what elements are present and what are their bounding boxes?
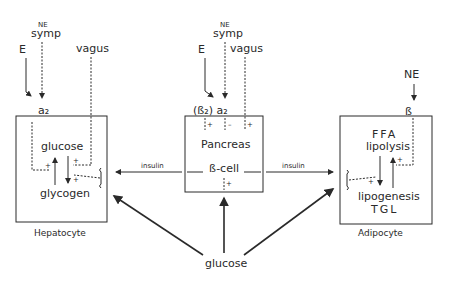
hep-e-arrow: [26, 58, 31, 96]
adi-brace: [347, 170, 349, 190]
glucose-source-label: glucose: [205, 257, 248, 270]
hep-sign: +: [73, 176, 79, 184]
glucose-to-liver-arrow: [114, 196, 203, 255]
pan-receptor-label: (ß₂) a₂: [193, 104, 228, 117]
hep-vagus-label: vagus: [76, 42, 109, 55]
insulin-right-label: insulin: [282, 162, 305, 170]
adi-sign: +: [368, 178, 374, 186]
beta-cell-label: ß-cell: [209, 162, 239, 175]
hep-e-label: E: [19, 43, 26, 56]
hep-sign: +: [45, 162, 51, 170]
hepatocyte-label: Hepatocyte: [34, 228, 86, 238]
hep-receptor-label: a₂: [38, 104, 49, 117]
hep-glucose-label: glucose: [41, 140, 84, 153]
pan-vagus-label: vagus: [230, 42, 263, 55]
hep-glycogen-label: glycogen: [40, 187, 90, 200]
hepatocyte-box: [16, 116, 107, 222]
pan-sign: +: [207, 121, 213, 129]
pan-e-arrow: [205, 58, 213, 97]
tgl-label: TGL: [370, 203, 398, 216]
insulin-left-label: insulin: [141, 162, 164, 170]
pan-sign: +: [226, 180, 232, 188]
adi-sign: +: [397, 156, 403, 164]
glucose-to-fat-arrow: [244, 189, 333, 255]
pancreas-label: Pancreas: [201, 138, 251, 151]
hep-symp-label: symp: [31, 27, 61, 40]
pan-sign: +: [247, 121, 253, 129]
pan-e-label: E: [198, 43, 205, 56]
hep-sign: +: [73, 157, 79, 165]
adi-ne-label: NE: [404, 68, 419, 81]
metabolic-regulation-diagram: NE symp E vagus a₂ glucose glycogen + + …: [0, 0, 452, 281]
lipolysis-label: lipolysis: [366, 140, 410, 153]
pan-symp-label: symp: [213, 27, 243, 40]
pan-sign: –: [228, 121, 232, 129]
adipocyte-label: Adipocyte: [358, 228, 403, 238]
lipogenesis-label: lipogenesis: [358, 190, 420, 203]
